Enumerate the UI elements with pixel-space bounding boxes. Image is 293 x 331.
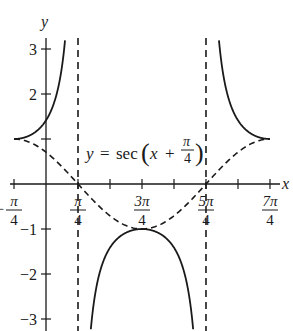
equation-var: x (149, 144, 158, 163)
x-axis-label: x (281, 175, 289, 192)
equation-equals: = (100, 144, 110, 163)
equation-label: y = sec ( x + π 4 ) (84, 134, 204, 167)
equation-close-paren: ) (195, 138, 204, 167)
y-tick-label: 3 (29, 41, 37, 58)
equation-lhs: y (84, 144, 94, 163)
equation-open-paren: ( (141, 138, 150, 167)
y-tick-label: −2 (20, 266, 37, 283)
equation-frac-den: 4 (184, 151, 191, 166)
y-tick-label: 2 (29, 86, 37, 103)
svg-text:π: π (10, 193, 18, 209)
secant-branch (219, 40, 270, 139)
axes (10, 38, 280, 331)
svg-text:4: 4 (10, 212, 18, 228)
x-tick-label: 3π4 (133, 193, 150, 228)
svg-text:7π: 7π (262, 193, 278, 209)
equation-plus: + (165, 144, 175, 163)
secant-branch (14, 40, 65, 139)
svg-text:−: − (0, 201, 4, 217)
y-axis-label: y (39, 13, 49, 31)
x-tick-label: 7π4 (262, 193, 278, 228)
svg-text:4: 4 (138, 212, 146, 228)
svg-text:3π: 3π (133, 193, 150, 209)
y-tick-label: −3 (20, 311, 37, 328)
x-ticks: π4−π43π45π47π4 (0, 179, 278, 228)
x-tick-label: π4− (0, 193, 22, 228)
equation-frac-num: π (183, 134, 191, 149)
secant-branch (91, 229, 193, 329)
equation-func: sec (116, 144, 138, 163)
y-tick-label: −1 (20, 221, 37, 238)
svg-text:4: 4 (266, 212, 274, 228)
secant-graph: π4−π43π45π47π4 32−1−2−3 x y y = sec ( x … (0, 0, 293, 331)
